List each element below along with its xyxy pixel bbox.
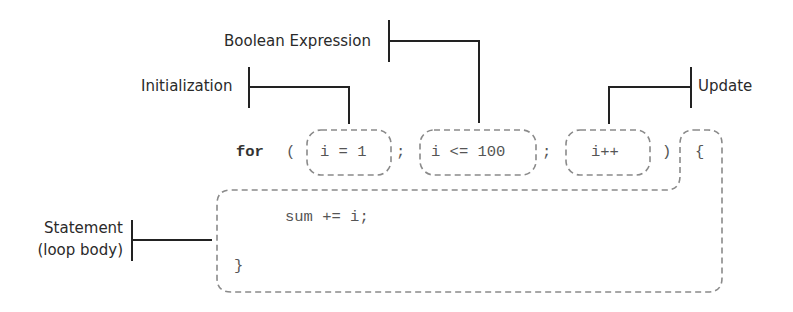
close-paren: ): [662, 145, 671, 161]
condition-expression: i <= 100: [431, 145, 505, 161]
loop-body-statement: sum += i;: [285, 210, 369, 226]
for-keyword: for: [236, 145, 264, 161]
statement-label-line1: Statement: [37, 221, 123, 236]
initialization-connector: [249, 67, 349, 124]
update-expression: i++: [591, 145, 619, 161]
open-paren: (: [286, 145, 295, 161]
update-label: Update: [698, 79, 752, 94]
init-expression: i = 1: [320, 145, 367, 161]
boolean-expression-connector: [389, 20, 479, 123]
update-connector: [609, 67, 691, 124]
semicolon-1: ;: [396, 145, 405, 161]
statement-connector: [132, 220, 212, 261]
semicolon-2: ;: [542, 145, 551, 161]
boolean-expression-label: Boolean Expression: [224, 34, 371, 49]
statement-label: Statement (loop body): [37, 221, 123, 258]
close-brace: }: [234, 259, 243, 275]
for-loop-diagram: Boolean Expression Initialization Update…: [0, 0, 793, 312]
initialization-label: Initialization: [141, 79, 232, 94]
open-brace: {: [695, 145, 704, 161]
statement-label-line2: (loop body): [37, 243, 123, 258]
